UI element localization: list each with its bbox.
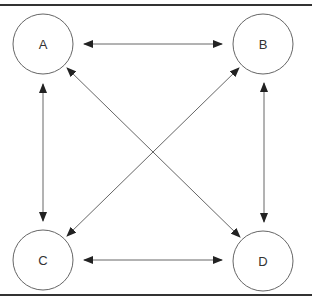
node-c-label: C: [38, 253, 47, 268]
node-b: B: [233, 14, 293, 74]
node-d: D: [233, 231, 293, 291]
node-a-label: A: [39, 37, 48, 52]
node-b-label: B: [259, 37, 268, 52]
node-a: A: [13, 14, 73, 74]
node-d-label: D: [258, 254, 267, 269]
edge-a-d: [67, 68, 240, 237]
diagram-canvas: A B C D: [0, 0, 312, 302]
node-c: C: [13, 230, 73, 290]
